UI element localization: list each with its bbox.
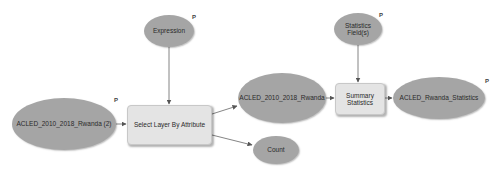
- node-label: Select Layer By Attribute: [134, 121, 205, 128]
- select-layer-by-attribute-tool-node[interactable]: Select Layer By Attribute: [127, 105, 212, 145]
- parameter-marker: P: [114, 97, 118, 103]
- node-label: ACLED_2010_2018_Rwanda: [239, 94, 324, 101]
- node-label: Count: [267, 146, 284, 153]
- parameter-marker: P: [192, 14, 196, 20]
- summary-statistics-tool-node[interactable]: Summary Statistics: [335, 83, 385, 115]
- node-label: ACLED_Rwanda_Statistics: [400, 94, 479, 101]
- node-label: Summary Statistics: [346, 92, 374, 107]
- edge-select-to-output: [212, 106, 237, 114]
- expression-variable-node[interactable]: Expression: [144, 15, 194, 47]
- parameter-marker: P: [379, 12, 383, 18]
- node-label: Expression: [153, 27, 185, 34]
- edge-select-to-count: [212, 135, 252, 145]
- statistics-output-data-node[interactable]: ACLED_Rwanda_Statistics: [393, 77, 485, 119]
- statistics-fields-variable-node[interactable]: Statistics Field(s): [334, 13, 382, 45]
- count-variable-node[interactable]: Count: [253, 136, 299, 164]
- model-canvas: Expression P ACLED_2010_2018_Rwanda (2) …: [0, 0, 502, 176]
- parameter-marker: P: [485, 78, 489, 84]
- node-label: ACLED_2010_2018_Rwanda (2): [16, 120, 111, 127]
- input-layer-data-node[interactable]: ACLED_2010_2018_Rwanda (2): [12, 98, 116, 150]
- node-label: Statistics Field(s): [334, 22, 382, 37]
- output-layer-data-node[interactable]: ACLED_2010_2018_Rwanda: [238, 73, 326, 123]
